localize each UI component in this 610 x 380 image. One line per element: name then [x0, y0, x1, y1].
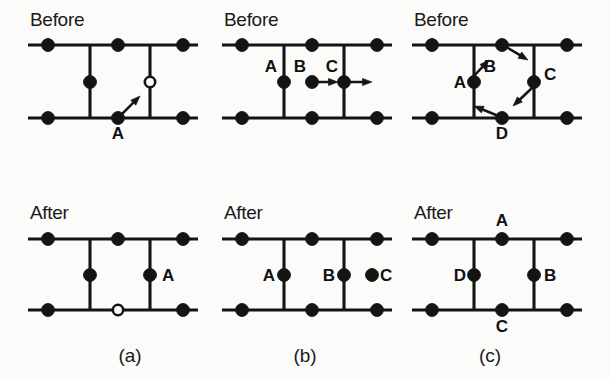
- atom-D-atom: [468, 269, 481, 282]
- rail-node-top-mid-atom: [306, 233, 319, 246]
- interstitial-left-atom: [84, 76, 97, 89]
- panel-b-after: AfterABC: [222, 202, 392, 316]
- figure-root: BeforeAAfterA(a)BeforeABCAfterABC(b)Befo…: [0, 0, 610, 380]
- rail-node-top-mid-atom: [112, 233, 125, 246]
- panel-a: BeforeAAfterA(a): [28, 9, 198, 366]
- rail-node-bottom-left-atom: [236, 304, 249, 317]
- rail-node-bottom-left-atom: [42, 112, 55, 125]
- site-label-a: A: [112, 124, 124, 143]
- panel-c: BeforeABCDAfterADBC(c): [412, 9, 582, 366]
- atom-B-atom: [528, 269, 541, 282]
- panel-caption-a: (a): [118, 345, 141, 366]
- rail-node-top-left-atom: [236, 39, 249, 52]
- rail-node-top-left-atom: [426, 233, 439, 246]
- site-label-b: B: [484, 57, 496, 76]
- rail-node-bottom-mid-atom: [306, 304, 319, 317]
- site-label-c: C: [496, 317, 508, 336]
- arrow-B-down-right-shaft: [508, 48, 521, 56]
- panel-a-after: AfterA: [28, 202, 198, 316]
- site-label-a: A: [496, 211, 508, 230]
- panel-a-before: BeforeA: [28, 9, 198, 143]
- stage-label-after: After: [414, 202, 454, 223]
- stage-label-after: After: [224, 202, 264, 223]
- panel-caption-b: (b): [293, 345, 316, 366]
- rail-node-bottom-right-atom: [561, 304, 574, 317]
- panel-caption-c: (c): [479, 345, 501, 366]
- rail-node-bottom-left-atom: [426, 304, 439, 317]
- panel-b-before: BeforeABC: [222, 9, 392, 124]
- atom-D-atom: [496, 112, 509, 125]
- stage-label-before: Before: [414, 9, 468, 30]
- atom-A-atom: [278, 76, 291, 89]
- stage-label-before: Before: [224, 9, 278, 30]
- site-label-c: C: [380, 266, 392, 285]
- panel-c-before: BeforeABCD: [412, 9, 582, 143]
- panel-b: BeforeABCAfterABC(b): [222, 9, 392, 366]
- arrow-C-right: [349, 78, 372, 85]
- arrow-A-up-right-shaft: [120, 102, 134, 116]
- stage-label-after: After: [30, 202, 70, 223]
- rail-node-bottom-right-atom: [177, 304, 190, 317]
- site-label-b: B: [294, 57, 306, 76]
- arrow-B-right-head: [329, 78, 339, 85]
- panel-c-after: AfterADBC: [412, 202, 582, 336]
- atom-B-atom: [496, 39, 509, 52]
- interstitial-left-atom: [84, 269, 97, 282]
- rail-node-top-right-atom: [177, 233, 190, 246]
- rail-node-bottom-mid-atom: [306, 112, 319, 125]
- stage-label-before: Before: [30, 9, 84, 30]
- atom-C-atom: [366, 269, 379, 282]
- rail-node-bottom-left-atom: [236, 112, 249, 125]
- rail-node-bottom-left-atom: [426, 112, 439, 125]
- arrow-D-up-left: [474, 106, 496, 115]
- atom-B-atom: [338, 269, 351, 282]
- rail-node-bottom-right-atom: [177, 112, 190, 125]
- rail-node-top-mid-atom: [112, 39, 125, 52]
- atom-C-atom: [528, 76, 541, 89]
- site-label-a: A: [454, 73, 466, 92]
- arrow-B-down-right-head: [518, 52, 528, 60]
- rail-node-top-left-atom: [42, 233, 55, 246]
- site-label-a: A: [162, 266, 174, 285]
- site-label-a: A: [263, 266, 275, 285]
- rail-node-top-right-atom: [561, 39, 574, 52]
- arrow-B-right: [317, 78, 338, 85]
- site-label-d: D: [454, 266, 466, 285]
- arrow-A-up-right: [120, 96, 140, 116]
- site-label-b: B: [323, 266, 335, 285]
- rail-node-top-left-atom: [426, 39, 439, 52]
- rail-node-bottom-right-atom: [371, 112, 384, 125]
- lattice-figure-svg: BeforeAAfterA(a)BeforeABCAfterABC(b)Befo…: [0, 0, 610, 380]
- arrow-C-down-left-shaft: [519, 88, 532, 100]
- atom-A-atom: [496, 233, 509, 246]
- vacancy-bottom-mid-vacancy: [113, 305, 123, 315]
- rail-node-top-left-atom: [236, 233, 249, 246]
- lattice-frame: [412, 45, 582, 118]
- site-label-b: B: [544, 266, 556, 285]
- arrow-D-up-left-shaft: [481, 109, 496, 115]
- rail-node-top-right-atom: [561, 233, 574, 246]
- lattice-frame: [412, 239, 582, 310]
- vacancy-right-vacancy: [145, 77, 155, 87]
- rail-node-bottom-right-atom: [371, 304, 384, 317]
- lattice-frame: [28, 45, 198, 118]
- arrow-B-down-right: [508, 48, 528, 60]
- atom-C-atom: [496, 304, 509, 317]
- arrow-C-down-left: [513, 88, 532, 106]
- site-label-d: D: [496, 124, 508, 143]
- rail-node-top-right-atom: [371, 233, 384, 246]
- site-label-c: C: [544, 65, 556, 84]
- atom-A-atom: [278, 269, 291, 282]
- atom-A-atom: [144, 269, 157, 282]
- rail-node-top-left-atom: [42, 39, 55, 52]
- rail-node-bottom-left-atom: [42, 304, 55, 317]
- rail-node-top-right-atom: [177, 39, 190, 52]
- rail-node-top-right-atom: [371, 39, 384, 52]
- site-label-c: C: [326, 57, 338, 76]
- arrow-C-right-head: [363, 78, 373, 85]
- site-label-a: A: [265, 57, 277, 76]
- rail-node-top-mid-atom: [306, 39, 319, 52]
- rail-node-bottom-right-atom: [561, 112, 574, 125]
